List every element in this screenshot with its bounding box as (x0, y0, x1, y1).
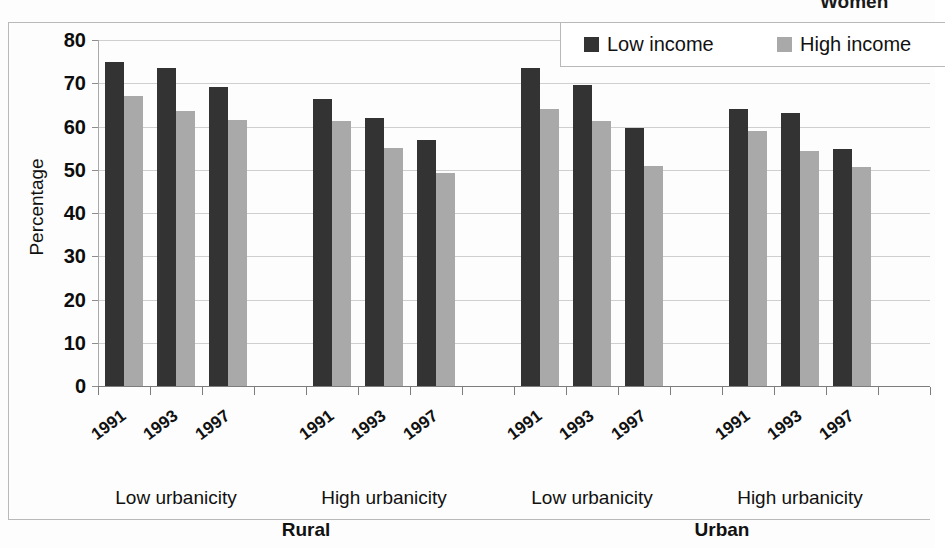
bar-high-income (644, 166, 663, 386)
bar-low-income (157, 68, 176, 386)
x-axis-tick-mark (410, 387, 411, 395)
bar-low-income (833, 149, 852, 386)
bar-high-income (748, 131, 767, 386)
bar-low-income (105, 62, 124, 386)
x-axis-tick-mark (618, 387, 619, 395)
x-axis-tick-mark (202, 387, 203, 395)
legend-swatch-low-income (584, 37, 599, 52)
bar-high-income (592, 121, 611, 386)
x-axis-tick-mark (462, 387, 463, 395)
y-axis-line (98, 40, 99, 387)
group-label: High urbanicity (700, 487, 900, 509)
bar-high-income (228, 120, 247, 386)
x-axis-tick-mark (826, 387, 827, 395)
y-axis-tick-label: 80 (44, 29, 86, 52)
legend-item-low-income[interactable]: Low income (584, 33, 714, 56)
bar-high-income (540, 109, 559, 386)
bar-high-income (436, 173, 455, 386)
bar-low-income (573, 85, 592, 386)
x-axis-tick-mark (930, 387, 931, 395)
y-axis-tick-label: 10 (44, 331, 86, 354)
x-axis-tick-mark (306, 387, 307, 395)
y-axis-tick-label: 20 (44, 288, 86, 311)
bar-low-income (417, 140, 436, 386)
legend: Low income High income (560, 22, 945, 67)
bar-high-income (800, 151, 819, 386)
bar-high-income (332, 121, 351, 386)
y-axis-tick-label: 60 (44, 115, 86, 138)
bar-low-income (781, 113, 800, 386)
group-label: High urbanicity (284, 487, 484, 509)
chart-super-title: Women (820, 0, 949, 10)
y-axis-tick-label: 40 (44, 202, 86, 225)
bar-low-income (729, 109, 748, 386)
bar-low-income (521, 68, 540, 386)
legend-item-high-income[interactable]: High income (777, 33, 911, 56)
x-axis-tick-mark (254, 387, 255, 395)
bar-high-income (124, 96, 143, 386)
legend-label-high-income: High income (800, 33, 911, 56)
y-axis-tick-label: 0 (44, 375, 86, 398)
bar-low-income (313, 99, 332, 386)
panel-label: Urban (602, 519, 842, 541)
gridline (98, 83, 930, 84)
bar-low-income (625, 128, 644, 386)
x-axis-tick-mark (878, 387, 879, 395)
x-axis-tick-mark (566, 387, 567, 395)
group-label: Low urbanicity (492, 487, 692, 509)
panel-label: Rural (186, 519, 426, 541)
legend-swatch-high-income (777, 37, 792, 52)
bar-high-income (176, 111, 195, 386)
x-axis-tick-mark (98, 387, 99, 395)
group-label: Low urbanicity (76, 487, 276, 509)
bar-low-income (365, 118, 384, 386)
x-axis-tick-mark (774, 387, 775, 395)
y-axis-tick-label: 70 (44, 72, 86, 95)
bar-high-income (384, 148, 403, 386)
x-axis-tick-mark (514, 387, 515, 395)
bar-low-income (209, 87, 228, 386)
x-axis-tick-mark (722, 387, 723, 395)
y-axis-tick-label: 50 (44, 158, 86, 181)
x-axis-tick-mark (150, 387, 151, 395)
y-axis-tick-label: 30 (44, 245, 86, 268)
bar-high-income (852, 167, 871, 386)
legend-label-low-income: Low income (607, 33, 714, 56)
x-axis-tick-mark (358, 387, 359, 395)
x-axis-tick-mark (670, 387, 671, 395)
